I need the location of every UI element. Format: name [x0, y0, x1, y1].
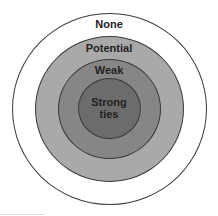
label-strong-line1: Strong: [0, 96, 218, 108]
label-potential: Potential: [0, 42, 218, 54]
divider: [0, 214, 45, 215]
label-strong-line2: ties: [0, 108, 218, 120]
label-none: None: [0, 18, 218, 30]
label-weak: Weak: [0, 64, 218, 76]
